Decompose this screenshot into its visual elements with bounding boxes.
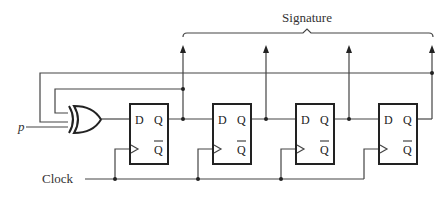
svg-text:D: D [218, 113, 227, 127]
p-input-label: p [17, 119, 25, 134]
arrow-up-icon [263, 45, 269, 53]
svg-text:Q: Q [154, 113, 163, 127]
svg-text:Q: Q [403, 113, 412, 127]
svg-text:Q: Q [237, 113, 246, 127]
svg-text:Q: Q [403, 143, 412, 157]
svg-text:D: D [384, 113, 393, 127]
flip-flop-2: D Q Q [213, 104, 251, 164]
clock-label: Clock [42, 171, 74, 186]
lfsr-circuit-diagram: Signature p Clock [0, 0, 446, 198]
svg-text:Q: Q [154, 143, 163, 157]
svg-text:D: D [135, 113, 144, 127]
arrow-up-icon [429, 45, 435, 53]
svg-text:Q: Q [320, 113, 329, 127]
svg-text:D: D [301, 113, 310, 127]
xor-gate [69, 106, 101, 133]
arrow-up-icon [346, 45, 352, 53]
svg-text:Q: Q [320, 143, 329, 157]
signature-label: Signature [282, 10, 332, 25]
signature-brace [183, 29, 433, 37]
chain-wires [168, 117, 379, 121]
arrow-up-icon [180, 45, 186, 53]
flip-flop-4: D Q Q [379, 104, 417, 164]
flip-flop-1: D Q Q [130, 104, 168, 164]
flip-flop-3: D Q Q [296, 104, 334, 164]
svg-text:Q: Q [237, 143, 246, 157]
